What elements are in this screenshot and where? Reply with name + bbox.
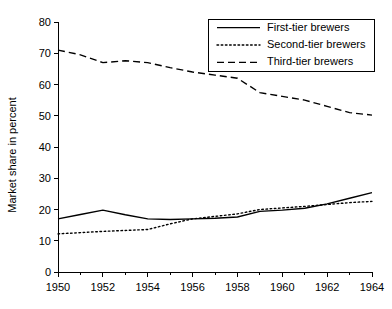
x-tick-label: 1962	[315, 281, 339, 293]
y-tick-label: 30	[39, 172, 51, 184]
x-tick-label: 1964	[360, 281, 384, 293]
line-chart: 01020304050607080 1950195219541956195819…	[0, 0, 392, 309]
y-tick-label: 0	[45, 266, 51, 278]
x-tick-label: 1960	[270, 281, 294, 293]
x-tick-label: 1958	[225, 281, 249, 293]
x-tick-label: 1952	[91, 281, 115, 293]
x-tick-label: 1956	[180, 281, 204, 293]
legend-label-1: First-tier brewers	[267, 21, 350, 33]
y-tick-label: 80	[39, 16, 51, 28]
y-tick-label: 40	[39, 141, 51, 153]
x-tick-label: 1950	[46, 281, 70, 293]
legend-label-3: Third-tier brewers	[267, 55, 354, 67]
series-lines	[58, 50, 372, 234]
chart-container: 01020304050607080 1950195219541956195819…	[0, 0, 392, 309]
legend-label-2: Second-tier brewers	[267, 38, 366, 50]
y-tick-label: 50	[39, 110, 51, 122]
x-axis: 19501952195419561958196019621964	[46, 272, 384, 293]
y-axis: 01020304050607080	[39, 16, 58, 278]
y-tick-label: 10	[39, 235, 51, 247]
series-line-1	[58, 193, 372, 220]
y-tick-label: 20	[39, 204, 51, 216]
x-tick-label: 1954	[135, 281, 159, 293]
chart-legend: First-tier brewersSecond-tier brewersThi…	[208, 19, 374, 71]
y-tick-label: 60	[39, 79, 51, 91]
y-axis-title: Market share in percent	[6, 97, 18, 213]
y-tick-label: 70	[39, 47, 51, 59]
